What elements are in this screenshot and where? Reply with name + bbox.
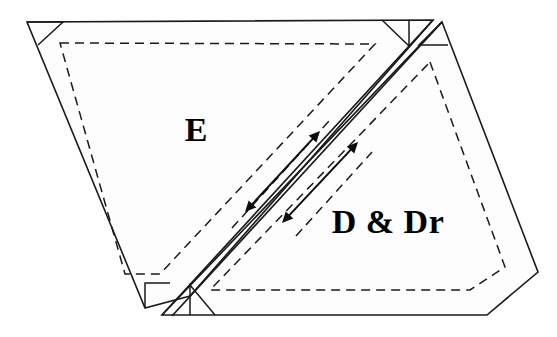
region-e-label: E [185,111,208,148]
technical-diagram: E D & Dr [0,0,557,337]
region-ddr-label: D & Dr [332,203,445,240]
diagram-root: E D & Dr [0,0,557,337]
